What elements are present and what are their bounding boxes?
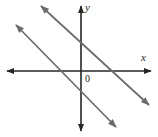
lower-parallel-line: [16, 25, 116, 127]
graph-canvas: [0, 0, 158, 137]
x-axis-label: x: [141, 52, 146, 63]
coordinate-plane-figure: x y 0: [0, 0, 158, 137]
upper-parallel-line: [41, 6, 149, 105]
origin-label: 0: [85, 74, 90, 84]
y-axis-label: y: [85, 2, 90, 13]
